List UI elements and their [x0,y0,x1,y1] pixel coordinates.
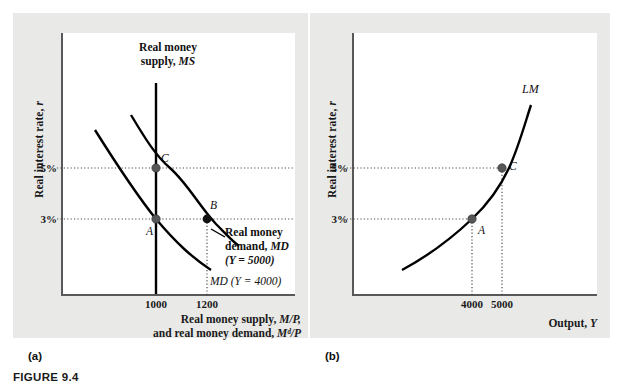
md-5000-curve [131,115,239,246]
panel-b-tag: (b) [325,350,340,362]
point-a-marker-left [152,215,160,223]
panel-b: Real interest rate, r 5% 3% 4000 5000 Ou… [310,13,610,338]
point-a-marker-right [468,215,476,223]
point-b-marker-left [203,215,212,224]
lm-curve [402,105,531,270]
panel-a-tag: (a) [28,350,42,362]
figure-caption: FIGURE 9.4 [13,371,79,383]
point-c-marker-left [152,164,160,172]
point-c-marker-right [498,164,506,172]
panel-a-tag-text: (a) [28,350,42,362]
panel-a: Real interest rate, r 5% 3% 1000 1200 Re… [13,13,308,338]
panel-b-graphics [310,13,610,338]
panel-b-tag-text: (b) [325,350,340,362]
panel-a-graphics [13,13,308,338]
figure-caption-text: FIGURE 9.4 [13,371,79,383]
